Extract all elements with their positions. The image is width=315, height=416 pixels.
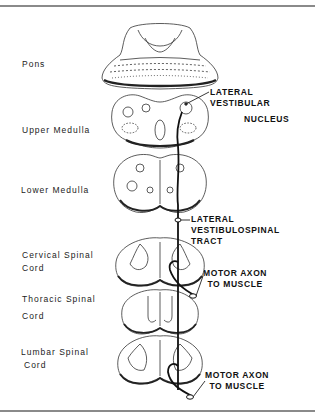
- upper-medulla-section: [112, 95, 209, 148]
- lower-medulla-section: [114, 154, 207, 212]
- cervical-cord-section: [116, 238, 205, 286]
- vestibulospinal-pathway-drawing: [0, 0, 315, 416]
- lumbar-cord-section: [118, 336, 203, 384]
- thoracic-cord-section: [122, 290, 199, 334]
- pons-section: [102, 24, 218, 90]
